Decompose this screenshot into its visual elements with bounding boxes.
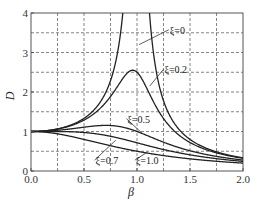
- curve-label: ξ=0.5: [127, 114, 150, 126]
- y-axis-label: D: [3, 91, 17, 101]
- y-tick-label: 0: [23, 165, 29, 177]
- y-tick-label: 4: [23, 7, 29, 19]
- x-tick-label: 0.5: [77, 173, 91, 185]
- curve-label: ξ=0.2: [165, 64, 188, 76]
- curve-label: ξ=1.0: [136, 155, 159, 167]
- annotation-leader-line: [139, 30, 169, 45]
- y-tick-label: 1: [23, 126, 29, 138]
- curve-xixi0: [146, 0, 243, 158]
- grid-lines: [31, 13, 243, 171]
- y-tick-label: 3: [23, 47, 29, 59]
- curve-label: ξ=0.7: [96, 155, 119, 167]
- x-tick-label: 1.0: [130, 173, 144, 185]
- y-tick-label: 2: [23, 86, 29, 98]
- x-axis-label: β: [127, 185, 134, 199]
- x-tick-label: 2.0: [236, 173, 250, 185]
- curve-label: ξ=0: [170, 25, 185, 37]
- amplification-chart: ξ=0ξ=0.2ξ=0.5ξ=0.7ξ=1.0 0.00.51.01.52.0 …: [0, 0, 260, 206]
- x-tick-label: 1.5: [183, 173, 197, 185]
